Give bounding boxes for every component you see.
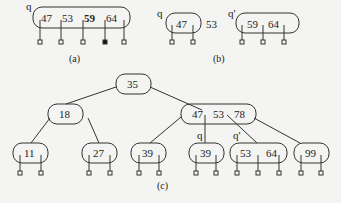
key: 18 bbox=[59, 108, 71, 120]
pointer-label: q bbox=[197, 129, 203, 141]
promoted-key: 53 bbox=[206, 18, 218, 30]
key: 11 bbox=[24, 147, 35, 159]
pointer-label: q' bbox=[228, 7, 236, 19]
b-tree-diagram: q 47 53 59 64 (a) q 47 53 q' 59 64 (b) 3… bbox=[0, 0, 341, 203]
caption-a: (a) bbox=[69, 53, 80, 65]
key: 78 bbox=[234, 108, 246, 120]
key: 59 bbox=[247, 18, 259, 30]
key: 47 bbox=[176, 18, 188, 30]
key: 27 bbox=[93, 147, 105, 159]
key-highlighted: 59 bbox=[84, 12, 96, 24]
key: 39 bbox=[142, 147, 154, 159]
key: 53 bbox=[213, 108, 225, 120]
key: 99 bbox=[305, 147, 317, 159]
pointer-label: q bbox=[157, 7, 163, 19]
key: 47 bbox=[41, 12, 53, 24]
key: 64 bbox=[106, 12, 118, 24]
key: 35 bbox=[127, 78, 139, 90]
caption-c: (c) bbox=[157, 180, 168, 192]
pointer-label: q' bbox=[233, 129, 241, 141]
caption-b: (b) bbox=[213, 53, 225, 65]
key: 64 bbox=[268, 18, 280, 30]
key: 53 bbox=[62, 12, 74, 24]
key: 53 bbox=[240, 147, 252, 159]
key: 64 bbox=[266, 147, 278, 159]
pointer-label: q bbox=[26, 0, 32, 12]
key: 47 bbox=[192, 108, 204, 120]
key: 39 bbox=[200, 147, 212, 159]
